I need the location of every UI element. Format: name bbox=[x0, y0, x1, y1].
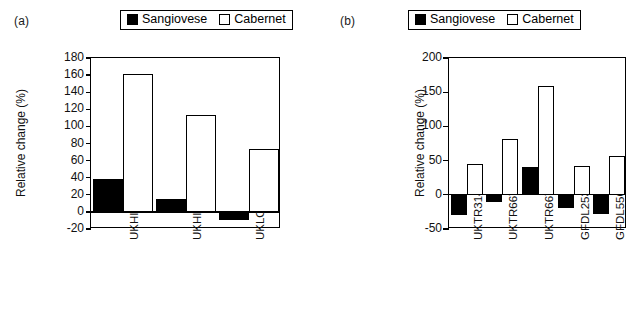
bar-sangiovese-ukhi bbox=[156, 199, 186, 212]
legend-entry-cabernet: Cabernet bbox=[507, 13, 573, 26]
bar-cabernet-gfdl2534a bbox=[574, 166, 590, 195]
panel-a-y-axis-title: Relative change (%) bbox=[14, 88, 28, 198]
bar-cabernet-uktr6675a bbox=[538, 86, 554, 195]
bar-sangiovese-uktr6675 bbox=[486, 195, 502, 202]
filled-square-icon bbox=[415, 14, 426, 25]
panel-a-plot-area bbox=[90, 57, 280, 228]
y-tick-label: 60 bbox=[71, 154, 84, 166]
y-axis-tick bbox=[86, 57, 91, 58]
x-tick-label: UKHI bbox=[191, 213, 203, 240]
legend-label-sangiovese: Sangiovese bbox=[142, 13, 207, 26]
panel-a-tag: (a) bbox=[14, 14, 29, 28]
bar-sangiovese-gfdl2534a bbox=[558, 195, 574, 209]
y-axis-tick bbox=[86, 126, 91, 127]
y-axis-tick bbox=[443, 126, 449, 127]
y-tick-label: 0 bbox=[77, 205, 84, 217]
bar-sangiovese-gfdl5564 bbox=[593, 195, 609, 214]
y-tick-label: 140 bbox=[64, 85, 84, 97]
legend-label-sangiovese: Sangiovese bbox=[430, 13, 495, 26]
y-axis-tick bbox=[86, 160, 91, 161]
y-tick-label: 80 bbox=[71, 137, 84, 149]
filled-square-icon bbox=[127, 14, 138, 25]
bar-sangiovese-ukhi bbox=[93, 179, 123, 211]
y-tick-label: 100 bbox=[422, 119, 442, 131]
y-axis-tick bbox=[86, 109, 91, 110]
bar-cabernet-uktr3140 bbox=[467, 164, 483, 195]
y-tick-label: -20 bbox=[67, 222, 84, 234]
bar-sangiovese-uklo bbox=[219, 212, 249, 220]
y-tick-label: 40 bbox=[71, 171, 84, 183]
panel-a: (a) Sangiovese Cabernet Relative change … bbox=[0, 0, 316, 324]
y-tick-label: -50 bbox=[425, 222, 442, 234]
y-axis-tick bbox=[86, 228, 91, 229]
legend-label-cabernet: Cabernet bbox=[234, 13, 285, 26]
open-square-icon bbox=[219, 14, 230, 25]
bar-cabernet-ukhi bbox=[123, 74, 153, 212]
panel-a-y-tick-labels: -20020406080100120140160180 bbox=[46, 57, 84, 324]
y-tick-label: 100 bbox=[64, 119, 84, 131]
bar-cabernet-uklo bbox=[249, 149, 279, 212]
y-axis-tick bbox=[86, 177, 91, 178]
y-axis-tick bbox=[86, 194, 91, 195]
bar-cabernet-ukhi bbox=[186, 115, 216, 212]
y-tick-label: 20 bbox=[71, 188, 84, 200]
panel-b: (b) Sangiovese Cabernet Relative change … bbox=[316, 0, 633, 324]
y-axis-tick bbox=[443, 92, 449, 93]
y-tick-label: 180 bbox=[64, 51, 84, 63]
legend-entry-sangiovese: Sangiovese bbox=[415, 13, 495, 26]
bar-cabernet-uktr6675 bbox=[502, 139, 518, 194]
legend-entry-cabernet: Cabernet bbox=[219, 13, 285, 26]
legend-label-cabernet: Cabernet bbox=[522, 13, 573, 26]
y-axis-tick bbox=[86, 143, 91, 144]
y-tick-label: 50 bbox=[429, 154, 442, 166]
y-tick-label: 120 bbox=[64, 102, 84, 114]
panel-b-tag: (b) bbox=[340, 14, 355, 28]
panel-b-y-tick-labels: -50050100150200 bbox=[404, 57, 442, 324]
bar-cabernet-gfdl5564 bbox=[609, 156, 625, 195]
panel-b-legend: Sangiovese Cabernet bbox=[408, 10, 581, 30]
x-tick-label: UKLO bbox=[254, 209, 266, 240]
y-axis-tick bbox=[443, 228, 449, 229]
y-axis-tick bbox=[443, 160, 449, 161]
x-tick-label: UKHI bbox=[128, 213, 140, 240]
y-tick-label: 160 bbox=[64, 68, 84, 80]
legend-entry-sangiovese: Sangiovese bbox=[127, 13, 207, 26]
panel-a-legend: Sangiovese Cabernet bbox=[120, 10, 293, 30]
bar-sangiovese-uktr3140 bbox=[451, 195, 467, 216]
figure-root: (a) Sangiovese Cabernet Relative change … bbox=[0, 0, 633, 324]
bar-sangiovese-uktr6675a bbox=[522, 167, 538, 195]
y-axis-tick bbox=[86, 92, 91, 93]
open-square-icon bbox=[507, 14, 518, 25]
y-axis-tick bbox=[86, 74, 91, 75]
y-tick-label: 0 bbox=[435, 188, 442, 200]
y-tick-label: 150 bbox=[422, 85, 442, 97]
y-tick-label: 200 bbox=[422, 51, 442, 63]
y-axis-tick bbox=[443, 57, 449, 58]
